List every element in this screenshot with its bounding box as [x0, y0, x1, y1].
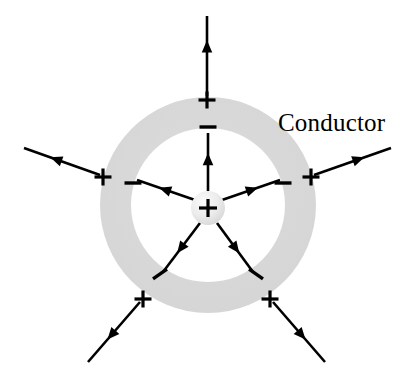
conductor-field-diagram: Conductor [0, 0, 409, 379]
physics-diagram-figure: Conductor [0, 0, 409, 379]
conductor-label: Conductor [278, 109, 386, 136]
conductor-shell [0, 0, 409, 379]
central-point-charge [191, 191, 225, 225]
